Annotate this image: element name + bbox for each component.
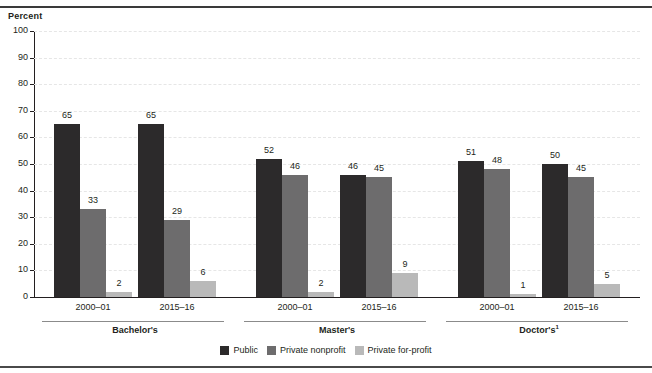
y-tick-label: 30 xyxy=(0,211,28,221)
bar-value-label: 29 xyxy=(158,206,196,216)
bar-value-label: 45 xyxy=(562,163,600,173)
x-axis-line xyxy=(34,297,640,298)
bar xyxy=(392,273,418,297)
y-tick-mark xyxy=(30,164,34,165)
bar-value-label: 52 xyxy=(250,145,288,155)
bar xyxy=(510,294,536,297)
group-underline xyxy=(446,321,628,322)
y-tick-mark xyxy=(30,244,34,245)
bar xyxy=(458,161,484,297)
bar-value-label: 45 xyxy=(360,163,398,173)
legend-swatch-icon xyxy=(220,346,229,355)
y-tick-label: 70 xyxy=(0,105,28,115)
bar xyxy=(256,159,282,297)
top-rule xyxy=(0,6,652,8)
y-tick-mark xyxy=(30,111,34,112)
y-tick-mark xyxy=(30,137,34,138)
bar xyxy=(542,164,568,297)
bar xyxy=(366,177,392,297)
y-tick-label: 0 xyxy=(0,291,28,301)
group-label: Doctor's1 xyxy=(438,325,640,335)
bar-value-label: 48 xyxy=(478,155,516,165)
y-tick-mark xyxy=(30,31,34,32)
legend-swatch-icon xyxy=(355,346,364,355)
bar-value-label: 33 xyxy=(74,195,112,205)
y-tick-label: 40 xyxy=(0,185,28,195)
period-label: 2015–16 xyxy=(137,302,217,312)
legend-item-nonprofit[interactable]: Private nonprofit xyxy=(267,345,346,355)
y-tick-label: 90 xyxy=(0,52,28,62)
bar-value-label: 50 xyxy=(536,150,574,160)
y-tick-mark xyxy=(30,217,34,218)
y-tick-label: 80 xyxy=(0,78,28,88)
bar xyxy=(484,169,510,297)
legend-swatch-icon xyxy=(267,346,276,355)
bar-value-label: 65 xyxy=(132,110,170,120)
bar xyxy=(54,124,80,297)
bar-value-label: 46 xyxy=(276,161,314,171)
y-tick-mark xyxy=(30,58,34,59)
gridline xyxy=(34,137,640,138)
period-label: 2000–01 xyxy=(457,302,537,312)
period-label: 2015–16 xyxy=(541,302,621,312)
gridline xyxy=(34,111,640,112)
period-label: 2000–01 xyxy=(53,302,133,312)
chart-figure: Percent 0102030405060708090100 2000–0120… xyxy=(0,0,652,373)
bar-value-label: 5 xyxy=(588,270,626,280)
y-tick-label: 20 xyxy=(0,238,28,248)
legend-label: Private for-profit xyxy=(368,345,432,355)
legend-item-forprofit[interactable]: Private for-profit xyxy=(355,345,432,355)
chart-legend: PublicPrivate nonprofitPrivate for-profi… xyxy=(0,345,652,355)
period-label: 2015–16 xyxy=(339,302,419,312)
y-tick-mark xyxy=(30,84,34,85)
bar xyxy=(190,281,216,297)
group-label: Master's xyxy=(236,325,438,335)
bar-value-label: 2 xyxy=(100,278,138,288)
y-tick-label: 50 xyxy=(0,158,28,168)
period-label: 2000–01 xyxy=(255,302,335,312)
bar-value-label: 9 xyxy=(386,259,424,269)
y-tick-mark xyxy=(30,191,34,192)
bottom-rule xyxy=(0,366,652,368)
gridline xyxy=(34,31,640,32)
legend-label: Public xyxy=(233,345,258,355)
group-label-footnote: 1 xyxy=(555,324,558,330)
bar xyxy=(106,292,132,297)
bar-value-label: 2 xyxy=(302,278,340,288)
y-tick-label: 60 xyxy=(0,131,28,141)
y-tick-label: 10 xyxy=(0,264,28,274)
group-underline xyxy=(244,321,426,322)
bar xyxy=(594,284,620,297)
y-axis-title: Percent xyxy=(8,11,42,21)
bar-value-label: 6 xyxy=(184,267,222,277)
bar xyxy=(308,292,334,297)
gridline xyxy=(34,58,640,59)
group-underline xyxy=(42,321,224,322)
bar-value-label: 65 xyxy=(48,110,86,120)
bar-value-label: 1 xyxy=(504,280,542,290)
y-tick-label: 100 xyxy=(0,25,28,35)
y-tick-mark xyxy=(30,270,34,271)
gridline xyxy=(34,84,640,85)
bar xyxy=(340,175,366,297)
legend-item-public[interactable]: Public xyxy=(220,345,258,355)
y-tick-mark xyxy=(30,297,34,298)
group-label: Bachelor's xyxy=(34,325,236,335)
legend-label: Private nonprofit xyxy=(280,345,346,355)
bar xyxy=(164,220,190,297)
